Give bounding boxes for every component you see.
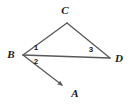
vertex-label-D: D [115,53,123,64]
vertex-label-B: B [7,49,14,60]
angle-label-1: 1 [34,44,38,52]
segment-BC [23,23,67,55]
angle-label-3: 3 [89,46,93,54]
vertex-label-A: A [71,88,78,99]
figure-canvas [0,0,131,105]
ray-BA [23,55,62,85]
angle-label-2: 2 [34,58,38,66]
vertex-label-C: C [61,5,68,16]
geometry-figure: C B D A 1 2 3 [0,0,131,105]
segments-group [23,23,110,85]
